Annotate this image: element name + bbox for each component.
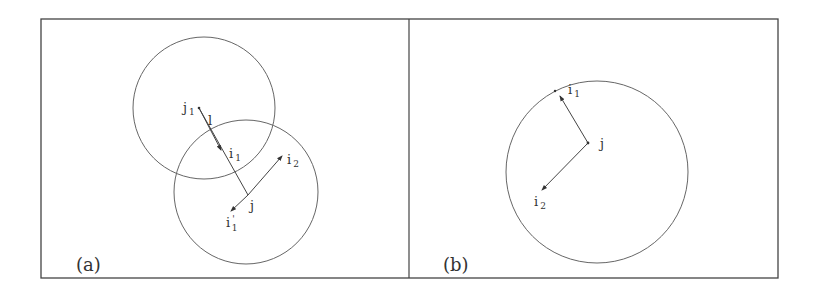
panel-b: i1 j i2 (b) [443,81,688,275]
circle-upper [133,37,275,179]
arrow-j-to-i1-prime [231,195,248,211]
label-l: l [208,113,212,128]
label-j: j [598,136,604,151]
label-j1: j1 [181,100,195,117]
panel-a-label: (a) [76,254,101,275]
label-i2: i2 [287,152,299,169]
panel-b-label: (b) [443,254,469,275]
arrow-j-to-i1 [560,96,588,143]
node-j-dot [587,142,590,145]
label-j: j [248,198,254,213]
node-i1-dot [554,90,556,92]
label-i1: i1 [229,146,241,163]
figure-canvas: j1 l i1 i2 j i'1 (a) i1 j i2 (b) [0,0,817,295]
circle-main [506,81,688,263]
panel-a: j1 l i1 i2 j i'1 (a) [76,37,318,275]
arrow-j-to-i2 [542,143,588,190]
node-j1-dot [198,107,201,110]
arrow-j-to-i2 [248,156,282,195]
label-i1-prime: i'1 [226,214,237,233]
label-i2: i2 [534,194,546,211]
label-i1: i1 [568,82,580,99]
